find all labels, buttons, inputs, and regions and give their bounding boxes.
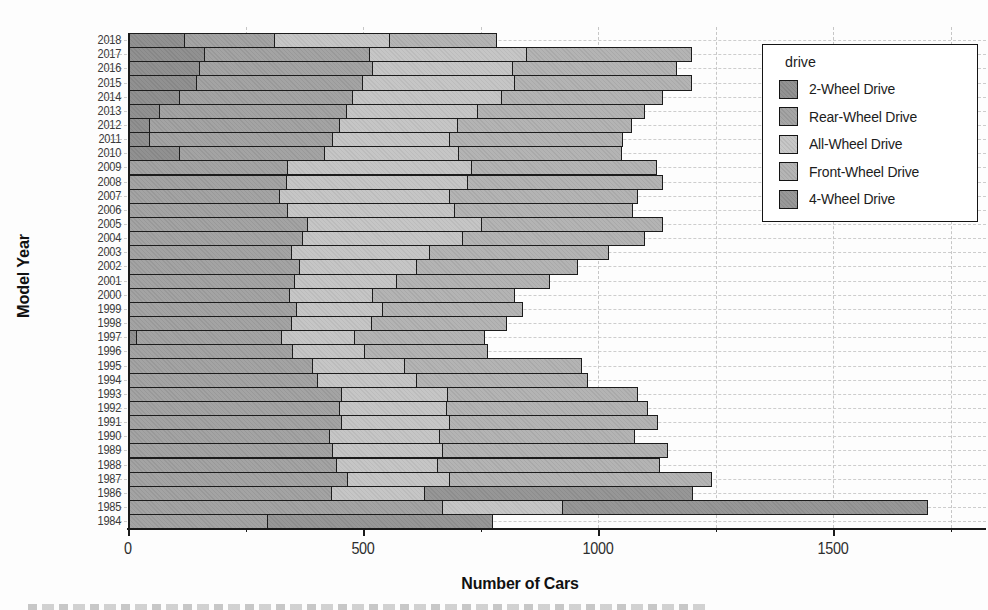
bar-segment — [292, 316, 372, 331]
bar-segment — [282, 330, 355, 345]
bar-row-2008 — [128, 175, 663, 190]
bar-segment — [527, 47, 692, 62]
bar-segment — [280, 189, 450, 204]
bar-segment — [128, 61, 200, 76]
bar-row-1995 — [128, 358, 582, 373]
y-tick-label: 2013 — [79, 105, 121, 117]
bar-segment — [563, 500, 928, 515]
bar-segment — [150, 132, 333, 147]
bar-row-1991 — [128, 415, 658, 430]
y-tick-label: 1990 — [79, 430, 121, 442]
bar-segment — [513, 61, 677, 76]
y-tick-label: 1999 — [79, 303, 121, 315]
bar-row-2001 — [128, 274, 550, 289]
bar-row-2011 — [128, 132, 623, 147]
x-major-tick-mark — [363, 528, 365, 536]
legend-item-label: 2-Wheel Drive — [809, 80, 895, 98]
bar-row-2006 — [128, 203, 633, 218]
bar-segment — [417, 259, 578, 274]
axis-spine-bottom — [127, 528, 986, 530]
bar-segment — [308, 217, 482, 232]
bar-segment — [397, 274, 550, 289]
bar-segment — [363, 75, 515, 90]
axis-spine-left — [128, 33, 130, 528]
y-tick-label: 2007 — [79, 190, 121, 202]
bar-segment — [425, 486, 693, 501]
bar-segment — [128, 373, 318, 388]
y-tick-label: 2010 — [79, 147, 121, 159]
bar-row-2003 — [128, 245, 609, 260]
gridline-vertical — [716, 27, 717, 528]
legend-item-label: Rear-Wheel Drive — [809, 108, 917, 126]
x-minor-tick-mark — [951, 528, 953, 532]
bar-row-1999 — [128, 302, 523, 317]
y-tick-label: 1989 — [79, 444, 121, 456]
bar-segment — [128, 288, 290, 303]
bar-segment — [128, 514, 268, 529]
bar-segment — [333, 132, 450, 147]
y-tick-label: 2017 — [79, 48, 121, 60]
y-tick-label: 2014 — [79, 91, 121, 103]
legend-item-label: All-Wheel Drive — [809, 135, 902, 153]
legend-item-label: 4-Wheel Drive — [809, 190, 895, 208]
bar-segment — [330, 429, 440, 444]
bar-segment — [325, 146, 459, 161]
bar-row-1987 — [128, 472, 712, 487]
bar-segment — [128, 33, 185, 48]
x-minor-tick-mark — [716, 528, 718, 532]
bar-segment — [128, 175, 287, 190]
y-tick-label: 2015 — [79, 77, 121, 89]
bar-segment — [185, 33, 275, 48]
bar-segment — [200, 61, 373, 76]
y-tick-label: 1992 — [79, 402, 121, 414]
bar-segment — [300, 259, 417, 274]
bar-segment — [293, 344, 365, 359]
bar-row-1989 — [128, 443, 668, 458]
bar-row-2012 — [128, 118, 632, 133]
bar-segment — [468, 175, 663, 190]
bar-segment — [340, 401, 447, 416]
bar-row-2005 — [128, 217, 663, 232]
x-major-tick-mark — [833, 528, 835, 536]
bar-segment — [128, 189, 280, 204]
bar-row-2018 — [128, 33, 497, 48]
bar-segment — [295, 274, 397, 289]
legend-item-2-wheel-drive: 2-Wheel Drive — [779, 79, 905, 99]
bar-segment — [417, 373, 588, 388]
bar-segment — [313, 358, 405, 373]
y-tick-label: 2001 — [79, 275, 121, 287]
x-axis-label: Number of Cars — [388, 574, 651, 594]
y-tick-label: 2005 — [79, 218, 121, 230]
bar-row-2016 — [128, 61, 677, 76]
y-tick-label: 2016 — [79, 62, 121, 74]
bar-segment — [128, 358, 313, 373]
x-tick-label: 500 — [336, 540, 390, 558]
bar-segment — [373, 288, 515, 303]
y-tick-label: 2006 — [79, 204, 121, 216]
bar-row-2004 — [128, 231, 645, 246]
y-tick-label: 1993 — [79, 388, 121, 400]
bar-row-1984 — [128, 514, 493, 529]
bar-segment — [333, 443, 443, 458]
legend-item-rear-wheel-drive: Rear-Wheel Drive — [779, 107, 929, 127]
bar-segment — [515, 75, 692, 90]
y-tick-label: 1987 — [79, 473, 121, 485]
bar-segment — [128, 245, 292, 260]
bar-segment — [448, 387, 638, 402]
bar-segment — [472, 160, 657, 175]
y-tick-label: 1995 — [79, 360, 121, 372]
bar-segment — [128, 429, 330, 444]
bar-segment — [128, 90, 180, 105]
bar-segment — [373, 61, 513, 76]
bar-row-2014 — [128, 90, 663, 105]
legend-swatch — [779, 162, 798, 181]
x-minor-tick-mark — [481, 528, 483, 532]
bar-segment — [342, 387, 448, 402]
bar-segment — [180, 146, 326, 161]
bar-row-1997 — [128, 330, 485, 345]
y-tick-label: 1986 — [79, 487, 121, 499]
bar-segment — [463, 231, 646, 246]
legend-item-all-wheel-drive: All-Wheel Drive — [779, 134, 913, 154]
y-tick-label: 1994 — [79, 374, 121, 386]
bar-segment — [128, 472, 348, 487]
